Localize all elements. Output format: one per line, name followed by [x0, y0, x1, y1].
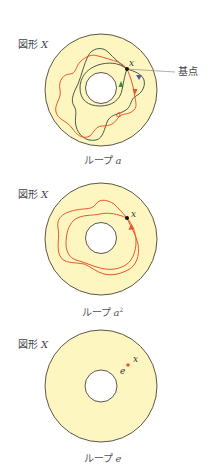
constant-loop-label: e [120, 366, 125, 376]
caption-loop-a: ループa [0, 152, 205, 167]
inner-hole [86, 73, 117, 104]
caption-loop-a-squared: ループa2 [0, 304, 205, 319]
caption-variable: e [116, 453, 122, 464]
figure-loop-a: 図形X x 基点 a ループa [0, 0, 215, 170]
base-point-label: x [133, 354, 138, 364]
caption-variable: a2 [114, 307, 124, 318]
caption-variable: a [116, 155, 122, 166]
annulus-diagram-loop-a: x 基点 a [0, 0, 215, 170]
inner-hole [86, 223, 117, 254]
caption-prefix: ループ [84, 453, 113, 464]
figure-loop-a-squared: 図形X x ループa2 [0, 170, 215, 320]
base-point-label: x [129, 58, 134, 68]
base-point-annotation: 基点 [178, 65, 198, 77]
inner-hole [85, 370, 117, 402]
constant-loop-point [126, 363, 130, 367]
caption-exponent: 2 [120, 306, 124, 313]
base-point-x [125, 216, 129, 220]
annulus-diagram-loop-a-squared: x [0, 170, 215, 320]
caption-loop-e: ループe [0, 450, 205, 465]
caption-prefix: ループ [82, 307, 111, 318]
caption-prefix: ループ [84, 155, 113, 166]
base-point-label: x [131, 209, 136, 219]
loop-a-label: a [116, 109, 121, 119]
figure-loop-e: 図形X x e ループe [0, 320, 215, 474]
